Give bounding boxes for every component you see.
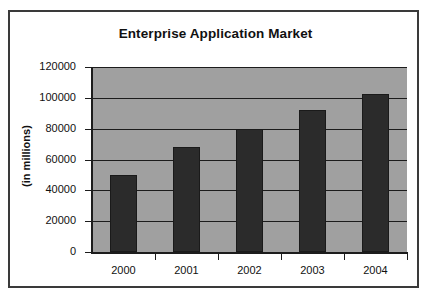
- x-tick-mark: [218, 253, 219, 260]
- chart-frame: Enterprise Application Market (in millio…: [8, 10, 419, 288]
- y-tick-mark: [85, 67, 92, 68]
- x-tick-mark: [155, 253, 156, 260]
- x-tick-label-2004: 2004: [346, 264, 406, 276]
- y-tick-label: 40000: [6, 183, 76, 195]
- x-tick-label-2003: 2003: [283, 264, 343, 276]
- y-tick-label: 100000: [6, 91, 76, 103]
- y-tick-label: 20000: [6, 214, 76, 226]
- x-tick-label-2002: 2002: [220, 264, 280, 276]
- x-tick-label-2000: 2000: [94, 264, 154, 276]
- bar-2003: [299, 110, 326, 252]
- y-tick-mark: [85, 98, 92, 99]
- x-axis-line: [91, 252, 408, 254]
- y-tick-label: 60000: [6, 153, 76, 165]
- y-tick-mark: [85, 160, 92, 161]
- y-tick-mark: [85, 252, 92, 253]
- gridline: [92, 67, 407, 68]
- y-tick-label: 80000: [6, 122, 76, 134]
- gridline: [92, 98, 407, 99]
- chart-title: Enterprise Application Market: [10, 26, 421, 41]
- y-tick-mark: [85, 221, 92, 222]
- x-tick-mark: [344, 253, 345, 260]
- bar-2000: [110, 175, 137, 252]
- plot-area: [92, 67, 407, 252]
- x-tick-mark: [407, 253, 408, 260]
- bar-2001: [173, 147, 200, 252]
- bar-2004: [362, 94, 389, 252]
- y-tick-mark: [85, 129, 92, 130]
- y-tick-label: 120000: [6, 60, 76, 72]
- x-tick-label-2001: 2001: [157, 264, 217, 276]
- y-tick-mark: [85, 190, 92, 191]
- bar-2002: [236, 129, 263, 252]
- x-tick-mark: [281, 253, 282, 260]
- y-tick-label: 0: [6, 245, 76, 257]
